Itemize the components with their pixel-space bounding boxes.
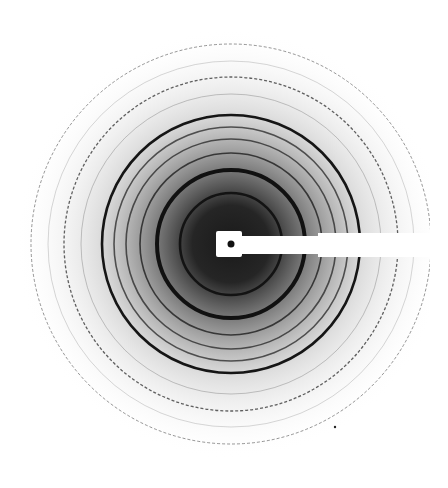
diffraction-pattern-image	[0, 0, 448, 488]
beam-stop-neck	[238, 236, 320, 254]
bottom-white-margin	[0, 476, 448, 488]
diffraction-pattern-canvas	[0, 0, 448, 488]
dust-speck	[334, 426, 336, 428]
direct-beam-spot	[228, 241, 235, 248]
beam-stop-arm	[318, 233, 448, 257]
